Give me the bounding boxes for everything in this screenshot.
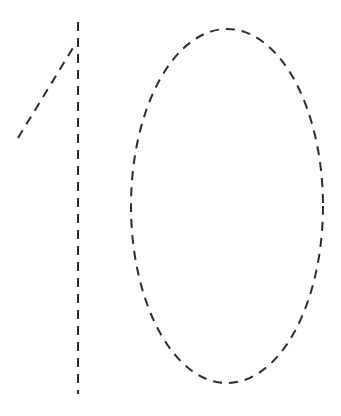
canvas-background [0, 0, 341, 416]
dashed-number-figure [0, 0, 341, 416]
drawing-canvas [0, 0, 341, 416]
